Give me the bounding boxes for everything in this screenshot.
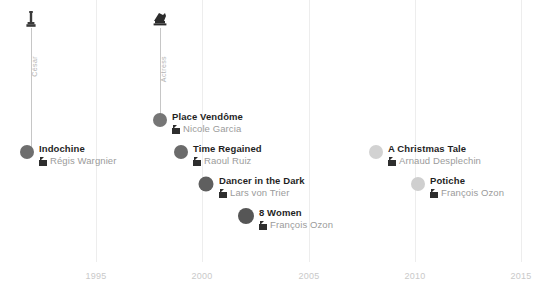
gridline-2010 bbox=[415, 0, 416, 262]
award-caption: César bbox=[31, 56, 38, 77]
award-stem bbox=[31, 28, 32, 152]
film-dot[interactable] bbox=[153, 113, 167, 127]
axis-tick-label: 2005 bbox=[298, 271, 319, 281]
film-title: Potiche bbox=[430, 175, 504, 187]
film-dot[interactable] bbox=[174, 145, 188, 159]
film-title: 8 Women bbox=[259, 207, 333, 219]
film-director: Nicole Garcia bbox=[183, 123, 241, 135]
film-entry[interactable]: 8 WomenFrançois Ozon bbox=[259, 207, 333, 231]
film-director: Lars von Trier bbox=[230, 187, 289, 199]
film-director: Raoul Ruiz bbox=[204, 155, 251, 167]
film-director-row: Lars von Trier bbox=[219, 187, 305, 199]
film-director: François Ozon bbox=[441, 187, 504, 199]
film-title: A Christmas Tale bbox=[388, 143, 481, 155]
film-dot[interactable] bbox=[199, 177, 214, 192]
axis-tick-label: 2015 bbox=[510, 271, 531, 281]
actress-award-icon bbox=[152, 10, 168, 31]
director-icon bbox=[39, 157, 47, 166]
film-dot[interactable] bbox=[20, 145, 34, 159]
director-icon bbox=[193, 157, 201, 166]
film-director-row: François Ozon bbox=[259, 219, 333, 231]
film-entry[interactable]: IndochineRégis Wargnier bbox=[39, 143, 117, 167]
director-icon bbox=[219, 189, 227, 198]
film-director-row: Arnaud Desplechin bbox=[388, 155, 481, 167]
film-dot[interactable] bbox=[238, 208, 254, 224]
film-dot[interactable] bbox=[369, 145, 383, 159]
film-entry[interactable]: A Christmas TaleArnaud Desplechin bbox=[388, 143, 481, 167]
film-dot[interactable] bbox=[411, 177, 425, 191]
film-entry[interactable]: Time RegainedRaoul Ruiz bbox=[193, 143, 262, 167]
director-icon bbox=[259, 221, 267, 230]
film-entry[interactable]: PoticheFrançois Ozon bbox=[430, 175, 504, 199]
axis-tick-label: 1995 bbox=[85, 271, 106, 281]
gridline-2015 bbox=[521, 0, 522, 262]
film-title: Dancer in the Dark bbox=[219, 175, 305, 187]
gridline-1995 bbox=[96, 0, 97, 262]
film-title: Place Vendôme bbox=[172, 111, 243, 123]
film-director-row: François Ozon bbox=[430, 187, 504, 199]
film-title: Indochine bbox=[39, 143, 117, 155]
film-director-row: Régis Wargnier bbox=[39, 155, 117, 167]
timeline-chart: 19952000200520102015 CésarActress Indoch… bbox=[0, 0, 549, 304]
film-director: François Ozon bbox=[270, 219, 333, 231]
director-icon bbox=[430, 189, 438, 198]
film-director-row: Nicole Garcia bbox=[172, 123, 243, 135]
axis-tick-label: 2000 bbox=[191, 271, 212, 281]
award-caption: Actress bbox=[160, 56, 167, 82]
director-icon bbox=[388, 157, 396, 166]
film-director: Régis Wargnier bbox=[50, 155, 117, 167]
film-title: Time Regained bbox=[193, 143, 262, 155]
director-icon bbox=[172, 125, 180, 134]
trophy-icon bbox=[24, 10, 38, 33]
film-entry[interactable]: Dancer in the DarkLars von Trier bbox=[219, 175, 305, 199]
axis-tick-label: 2010 bbox=[404, 271, 425, 281]
film-director: Arnaud Desplechin bbox=[399, 155, 481, 167]
film-director-row: Raoul Ruiz bbox=[193, 155, 262, 167]
film-entry[interactable]: Place VendômeNicole Garcia bbox=[172, 111, 243, 135]
